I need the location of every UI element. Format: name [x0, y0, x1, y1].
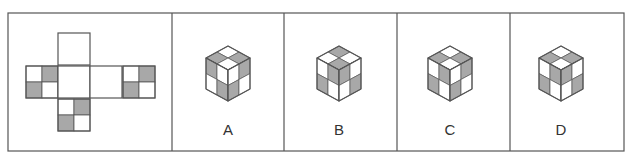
- option-label-c[interactable]: C: [430, 121, 470, 138]
- option-label-d[interactable]: D: [541, 121, 581, 138]
- cube-option-c[interactable]: [428, 46, 472, 101]
- net-face-right: [90, 66, 122, 98]
- net-face-top: [58, 33, 90, 65]
- puzzle-figure: [0, 0, 630, 160]
- option-label-a[interactable]: A: [208, 121, 248, 138]
- net-face-back: [123, 66, 155, 98]
- cube-options: [206, 46, 583, 101]
- net-face-left: [26, 66, 58, 98]
- cube-option-a[interactable]: [206, 46, 250, 101]
- cube-option-b[interactable]: [317, 46, 361, 101]
- cube-net: [26, 33, 155, 131]
- cube-option-d[interactable]: [539, 46, 583, 101]
- option-label-b[interactable]: B: [319, 121, 359, 138]
- net-face-bottom: [58, 99, 90, 131]
- net-face-front: [58, 66, 90, 98]
